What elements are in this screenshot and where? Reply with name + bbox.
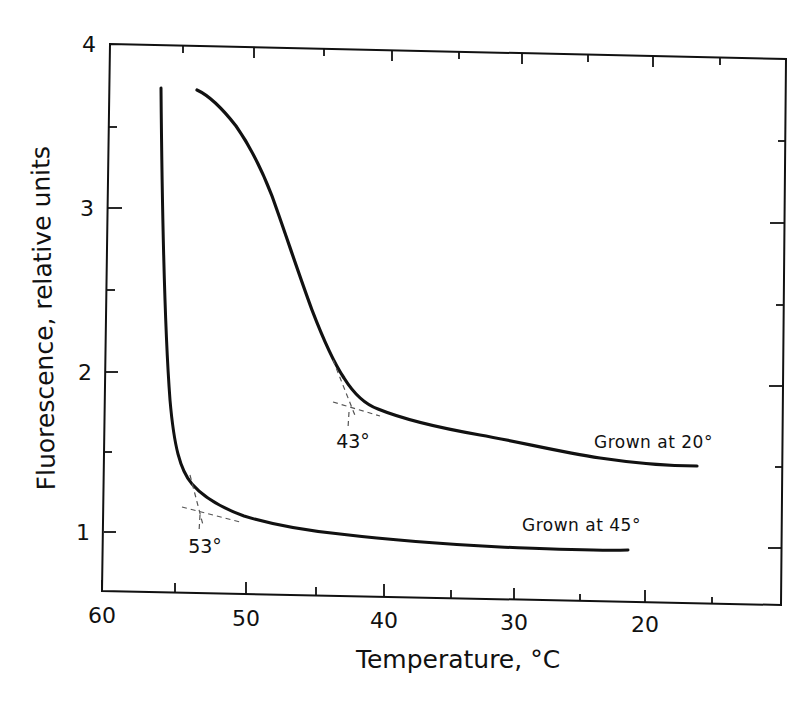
x-tick-60: 60 [88, 603, 116, 628]
annotation-53: 53° [188, 535, 222, 557]
x-tick-20: 20 [631, 612, 659, 637]
x-tick-40: 40 [370, 608, 398, 633]
plot-frame [102, 44, 786, 605]
series-grown-at-20-curve [197, 90, 697, 466]
x-axis-title: Temperature, °C [355, 645, 560, 674]
fluorescence-chart: 60 50 40 30 20 4 3 2 1 Temperature, °C F… [0, 0, 807, 703]
series-grown-at-45-curve [161, 88, 628, 550]
y-tick-3: 3 [80, 196, 94, 221]
series-label-grown-at-20: Grown at 20° [594, 432, 713, 452]
y-tick-1: 1 [76, 520, 90, 545]
x-tick-50: 50 [232, 606, 260, 631]
series-label-grown-at-45: Grown at 45° [522, 515, 641, 535]
x-tick-labels: 60 50 40 30 20 [88, 603, 659, 637]
y-axis-title: Fluorescence, relative units [26, 146, 61, 491]
x-tick-30: 30 [500, 610, 528, 635]
annotation-43: 43° [336, 430, 370, 452]
y-tick-labels: 4 3 2 1 [76, 32, 96, 545]
y-tick-4: 4 [82, 32, 96, 57]
y-tick-2: 2 [78, 360, 92, 385]
